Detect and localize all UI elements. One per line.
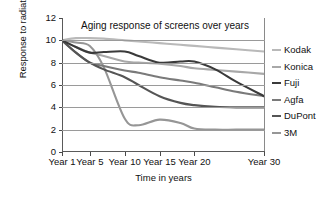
y-tick-label: 0 (38, 147, 56, 156)
legend-swatch-icon (272, 99, 281, 101)
series-line-dupont (62, 40, 264, 107)
legend-item-label: 3M (284, 128, 297, 138)
x-axis-title: Time in years (62, 172, 265, 183)
y-tick-label: 6 (38, 80, 56, 89)
chart-figure: Response to radiation 024681012 Year 1Ye… (0, 0, 328, 199)
legend-item-label: Agfa (284, 95, 304, 105)
x-tick-mark (125, 152, 126, 156)
x-tick-mark (160, 152, 161, 156)
gridline (62, 40, 265, 41)
chart-legend: KodakKonicaFujiAgfaDuPont3M (272, 42, 328, 141)
x-tick-mark (90, 152, 91, 156)
y-axis-title: Response to radiation (17, 0, 31, 113)
gridline (62, 107, 265, 108)
x-axis-line (62, 151, 265, 152)
series-line-konica (62, 40, 264, 74)
y-tick-label: 2 (38, 125, 56, 134)
gridline (62, 85, 265, 86)
legend-swatch-icon (272, 66, 281, 68)
y-tick-mark (59, 130, 62, 131)
x-tick-mark (264, 152, 265, 156)
legend-item-dupont[interactable]: DuPont (272, 108, 328, 125)
legend-swatch-icon (272, 82, 281, 84)
legend-item-label: Fuji (284, 78, 299, 88)
y-tick-mark (59, 85, 62, 86)
chart-title: Aging response of screens over years (70, 20, 260, 31)
x-tick-mark (194, 152, 195, 156)
y-tick-label: 10 (38, 35, 56, 44)
y-tick-label: 8 (38, 58, 56, 67)
x-tick-mark (62, 152, 63, 156)
y-tick-mark (59, 107, 62, 108)
y-tick-mark (59, 40, 62, 41)
y-tick-label: 4 (38, 102, 56, 111)
legend-swatch-icon (272, 132, 281, 134)
legend-item-fuji[interactable]: Fuji (272, 75, 328, 92)
x-tick-label: Year 30 (244, 156, 284, 167)
x-tick-label: Year 20 (174, 156, 214, 167)
y-tick-mark (59, 18, 62, 19)
legend-item-konica[interactable]: Konica (272, 59, 328, 76)
legend-item-label: Kodak (284, 45, 311, 55)
legend-swatch-icon (272, 115, 281, 117)
plot-area (62, 18, 265, 152)
legend-item-agfa[interactable]: Agfa (272, 92, 328, 109)
legend-item-label: Konica (284, 62, 313, 72)
legend-item-label: DuPont (284, 111, 316, 121)
gridline (62, 63, 265, 64)
legend-item-3m[interactable]: 3M (272, 125, 328, 142)
legend-item-kodak[interactable]: Kodak (272, 42, 328, 59)
y-tick-mark (59, 63, 62, 64)
gridline (62, 130, 265, 131)
y-tick-label: 12 (38, 13, 56, 22)
legend-swatch-icon (272, 49, 281, 51)
